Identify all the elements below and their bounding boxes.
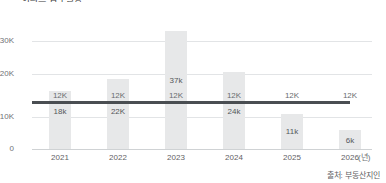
gridline-10k bbox=[32, 117, 372, 118]
ytick-label-10k: 10K bbox=[0, 113, 14, 121]
xtick-label-2022: 2022 bbox=[90, 153, 146, 162]
demand-label-2026: 12K bbox=[328, 92, 372, 100]
supply-label-2023: 37k bbox=[154, 77, 198, 85]
supply-label-2021: 18k bbox=[38, 108, 82, 116]
supply-label-2022: 22K bbox=[96, 108, 140, 116]
ytick-label-30k: 30K bbox=[0, 37, 14, 45]
xtick-label-2023: 2023 bbox=[148, 153, 204, 162]
supply-label-2024: 24k bbox=[212, 108, 256, 116]
demand-label-2025: 12K bbox=[270, 92, 314, 100]
bar-chart: 아파트 입주물량 30K 20K 10K 0 12K 12K 12K 12K 1… bbox=[0, 0, 386, 183]
demand-label-2021: 12K bbox=[38, 92, 82, 100]
xtick-label-2025: 2025 bbox=[264, 153, 320, 162]
source-note: 출처: 부동산지인 bbox=[327, 171, 380, 180]
xtick-label-2021: 2021 bbox=[32, 153, 88, 162]
demand-label-2023: 12K bbox=[154, 92, 198, 100]
gridline-30k bbox=[32, 41, 372, 42]
chart-title: 아파트 입주물량 bbox=[22, 0, 82, 2]
ytick-label-20k: 20K bbox=[0, 70, 14, 78]
gridline-20px bbox=[32, 74, 372, 75]
demand-label-2022: 12K bbox=[96, 92, 140, 100]
supply-label-2026: 6k bbox=[328, 137, 372, 145]
ytick-label-0: 0 bbox=[0, 145, 14, 153]
xtick-label-2024: 2024 bbox=[206, 153, 262, 162]
supply-label-2025: 11k bbox=[270, 128, 314, 136]
demand-label-2024: 12K bbox=[212, 92, 256, 100]
demand-reference-line bbox=[32, 101, 350, 104]
axis-baseline bbox=[32, 149, 372, 150]
xaxis-unit-label: (년) bbox=[358, 153, 370, 162]
plot-area: 30K 20K 10K 0 12K 12K 12K 12K 12K 12K 18… bbox=[32, 4, 372, 150]
bar-2023 bbox=[165, 31, 187, 149]
